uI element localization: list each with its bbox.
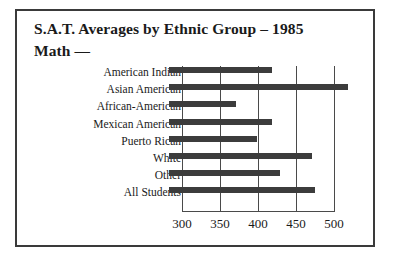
value-axis-line — [182, 211, 334, 212]
tick-label: 350 — [200, 216, 240, 232]
tick-label: 400 — [238, 216, 278, 232]
category-label: American Indian — [17, 66, 181, 78]
category-label: White — [17, 152, 181, 164]
value-axis-tick-labels: 300350400450500 — [182, 216, 362, 236]
chart-subtitle: Math — — [34, 41, 356, 61]
bar — [169, 119, 272, 125]
bar — [169, 153, 312, 159]
bar — [169, 67, 272, 73]
tick-label: 500 — [314, 216, 354, 232]
category-label: Asian American — [17, 83, 181, 95]
category-axis-labels: American IndianAsian AmericanAfrican-Ame… — [17, 66, 181, 212]
plot-area — [182, 66, 334, 212]
chart-title-block: S.A.T. Averages by Ethnic Group – 1985 M… — [34, 19, 356, 61]
category-label: Other — [17, 169, 181, 181]
bar — [169, 84, 348, 90]
bar — [169, 101, 236, 107]
bar — [169, 187, 315, 193]
page-title: S.A.T. Averages by Ethnic Group – 1985 — [34, 19, 356, 39]
category-label: African-American — [17, 100, 181, 112]
category-label: Mexican American — [17, 118, 181, 130]
category-label: Puerto Rican — [17, 135, 181, 147]
bar — [169, 136, 257, 142]
category-label: All Students — [17, 186, 181, 198]
plot-wrapper: American IndianAsian AmericanAfrican-Ame… — [17, 66, 373, 246]
bar — [169, 170, 280, 176]
chart-figure: S.A.T. Averages by Ethnic Group – 1985 M… — [15, 9, 375, 247]
tick-label: 450 — [276, 216, 316, 232]
tick-label: 300 — [162, 216, 202, 232]
